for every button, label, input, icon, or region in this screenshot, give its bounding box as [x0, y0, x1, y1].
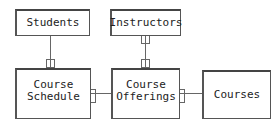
- entity-label: Courses: [214, 89, 260, 101]
- entity-label: Students: [27, 17, 80, 29]
- entity-label: Course Offerings: [116, 79, 176, 103]
- entity-courses[interactable]: Courses: [202, 70, 271, 119]
- entity-course-schedule[interactable]: Course Schedule: [15, 68, 91, 119]
- entity-label: Course Schedule: [27, 79, 80, 103]
- entity-students[interactable]: Students: [15, 9, 90, 36]
- entity-instructors[interactable]: Instructors: [110, 9, 181, 36]
- entity-course-offerings[interactable]: Course Offerings: [111, 68, 180, 119]
- connector-start-marker: [91, 90, 96, 103]
- entity-label: Instructors: [110, 17, 183, 29]
- connector-start-marker: [180, 90, 185, 103]
